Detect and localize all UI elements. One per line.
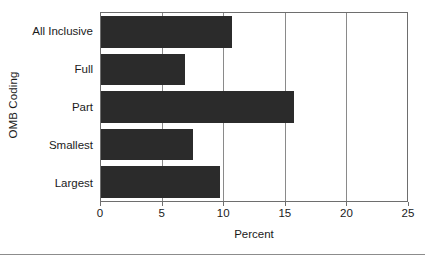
y-axis-tick-label: Full	[26, 50, 97, 88]
bar-row	[101, 51, 407, 89]
y-axis-tick-label: Part	[26, 88, 97, 126]
bar	[101, 129, 193, 161]
x-axis-tick-mark	[408, 202, 409, 206]
y-axis-tick-labels: All InclusiveFullPartSmallestLargest	[26, 12, 97, 202]
x-axis-tick-label: 15	[278, 207, 291, 219]
bar-row	[101, 88, 407, 126]
y-axis-title: OMB Coding	[0, 0, 26, 210]
bottom-separator-rule	[0, 254, 425, 255]
plot-area	[100, 12, 408, 202]
bar	[101, 166, 220, 198]
x-axis-tick-label: 0	[97, 207, 103, 219]
y-axis-tick-label: Largest	[26, 164, 97, 202]
x-axis-tick-label: 25	[402, 207, 415, 219]
x-axis-tick-mark	[346, 202, 347, 206]
bar-chart-figure: OMB Coding All InclusiveFullPartSmallest…	[0, 0, 425, 264]
x-axis-tick-mark	[223, 202, 224, 206]
x-axis-tick-mark	[285, 202, 286, 206]
bar-row	[101, 163, 407, 201]
x-axis-tick-mark	[100, 202, 101, 206]
y-axis-tick-label: Smallest	[26, 126, 97, 164]
bar	[101, 91, 294, 123]
y-axis-title-label: OMB Coding	[7, 72, 19, 139]
x-axis-tick-mark	[162, 202, 163, 206]
bar	[101, 54, 185, 86]
bar-row	[101, 13, 407, 51]
x-axis-tick-label: 20	[340, 207, 353, 219]
bar	[101, 16, 232, 48]
bar-row	[101, 126, 407, 164]
x-axis-tick-labels: 0510152025	[100, 207, 408, 223]
y-axis-tick-label: All Inclusive	[26, 12, 97, 50]
bar-series	[101, 13, 407, 201]
x-axis-tick-label: 10	[217, 207, 230, 219]
x-axis-title: Percent	[100, 228, 408, 240]
x-axis-tick-label: 5	[158, 207, 164, 219]
